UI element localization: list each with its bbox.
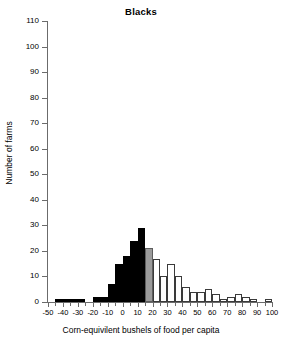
y-tick-mark	[42, 47, 47, 48]
x-minor-tick-mark	[85, 303, 86, 306]
y-tick-mark	[42, 200, 47, 201]
chart-figure: Blacks 0102030405060708090100110 -50-40-…	[0, 0, 282, 351]
histogram-bar	[212, 294, 219, 302]
y-tick-label: 10	[0, 272, 39, 280]
x-minor-tick-mark	[197, 303, 198, 306]
histogram-bar	[190, 292, 197, 302]
x-minor-tick-mark	[250, 303, 251, 306]
x-minor-tick-mark	[108, 303, 109, 306]
histogram-bar	[115, 264, 122, 302]
x-minor-tick-mark	[93, 303, 94, 306]
y-tick-mark	[42, 123, 47, 124]
y-tick-mark	[42, 251, 47, 252]
histogram-bar	[153, 259, 160, 302]
histogram-bar	[145, 248, 152, 302]
y-tick-mark	[42, 98, 47, 99]
y-tick-label: 0	[0, 298, 39, 306]
y-tick-mark	[42, 149, 47, 150]
x-minor-tick-mark	[220, 303, 221, 306]
x-minor-tick-mark	[115, 303, 116, 306]
histogram-bar	[235, 294, 242, 302]
plot-area	[48, 21, 272, 302]
x-minor-tick-mark	[212, 303, 213, 306]
histogram-bar	[242, 297, 249, 302]
histogram-bar	[108, 284, 115, 302]
x-minor-tick-mark	[55, 303, 56, 306]
histogram-bar	[175, 276, 182, 302]
y-tick-label: 110	[0, 17, 39, 25]
histogram-bar	[227, 297, 234, 302]
x-minor-tick-mark	[130, 303, 131, 306]
histogram-bar	[130, 241, 137, 302]
y-tick-mark	[42, 225, 47, 226]
x-minor-tick-mark	[145, 303, 146, 306]
x-minor-tick-mark	[205, 303, 206, 306]
y-tick-label: 30	[0, 221, 39, 229]
x-minor-tick-mark	[160, 303, 161, 306]
x-minor-tick-mark	[138, 303, 139, 306]
histogram-bar	[167, 264, 174, 302]
x-minor-tick-mark	[48, 303, 49, 306]
histogram-bar	[123, 256, 130, 302]
x-minor-tick-mark	[167, 303, 168, 306]
histogram-bar	[55, 299, 62, 302]
x-minor-tick-mark	[265, 303, 266, 306]
x-minor-tick-mark	[153, 303, 154, 306]
histogram-bar	[63, 299, 70, 302]
histogram-bar	[197, 292, 204, 302]
histogram-bar	[93, 297, 100, 302]
x-minor-tick-mark	[100, 303, 101, 306]
x-minor-tick-mark	[78, 303, 79, 306]
x-minor-tick-mark	[235, 303, 236, 306]
y-axis-title: Number of farms	[4, 88, 14, 218]
x-minor-tick-mark	[227, 303, 228, 306]
x-minor-tick-mark	[63, 303, 64, 306]
x-minor-tick-mark	[257, 303, 258, 306]
x-minor-tick-mark	[123, 303, 124, 306]
histogram-bar	[138, 228, 145, 302]
chart-title: Blacks	[0, 6, 282, 17]
x-minor-tick-mark	[190, 303, 191, 306]
y-tick-mark	[42, 21, 47, 22]
histogram-bar	[265, 299, 272, 302]
x-minor-tick-mark	[175, 303, 176, 306]
histogram-bar	[182, 287, 189, 302]
y-tick-mark	[42, 276, 47, 277]
x-minor-tick-mark	[272, 303, 273, 306]
histogram-bar	[250, 299, 257, 302]
histogram-bar	[78, 299, 85, 302]
x-tick-label: 100	[259, 309, 282, 317]
histogram-bar	[205, 289, 212, 302]
y-tick-mark	[42, 302, 47, 303]
y-tick-mark	[42, 174, 47, 175]
x-axis-title: Corn-equivilent bushels of food per capi…	[0, 325, 282, 335]
y-tick-label: 90	[0, 68, 39, 76]
x-minor-tick-mark	[242, 303, 243, 306]
histogram-bar	[70, 299, 77, 302]
histogram-bar	[220, 299, 227, 302]
x-minor-tick-mark	[70, 303, 71, 306]
x-minor-tick-mark	[182, 303, 183, 306]
y-tick-label: 100	[0, 43, 39, 51]
histogram-bars	[48, 21, 272, 302]
histogram-bar	[160, 276, 167, 302]
y-tick-label: 20	[0, 247, 39, 255]
y-tick-mark	[42, 72, 47, 73]
histogram-bar	[100, 297, 107, 302]
